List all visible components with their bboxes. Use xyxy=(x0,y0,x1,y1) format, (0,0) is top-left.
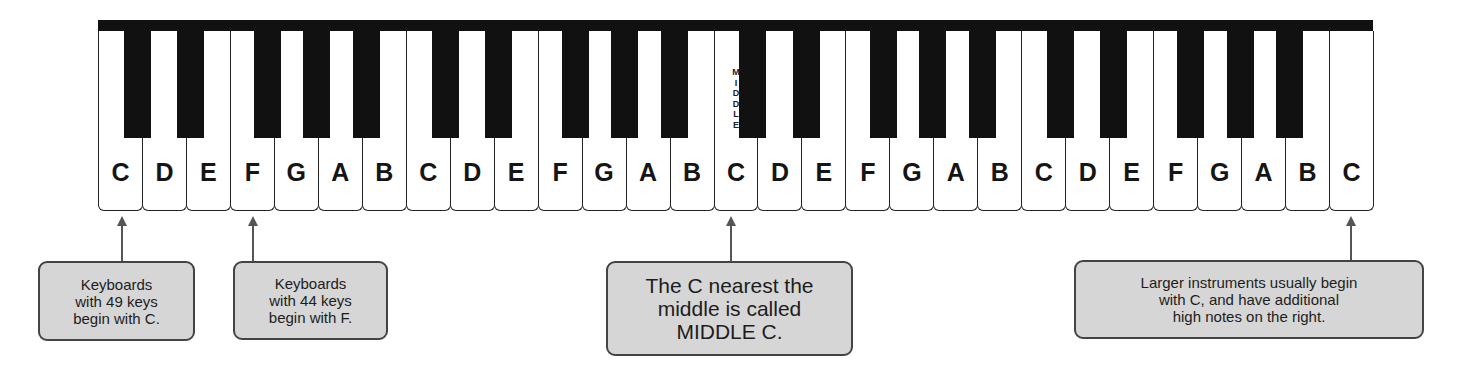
note-label: A xyxy=(627,160,670,185)
note-label: G xyxy=(890,160,933,185)
arrow-up-icon xyxy=(1350,225,1352,261)
note-label: E xyxy=(1110,160,1153,185)
callout-49-keys-text: Keyboards with 49 keys begin with C. xyxy=(73,276,160,327)
note-label: D xyxy=(758,160,801,185)
note-label: F xyxy=(846,160,889,185)
black-key-d-sharp xyxy=(177,31,204,138)
note-label: B xyxy=(1286,160,1329,185)
callout-49-keys: Keyboards with 49 keys begin with C. xyxy=(38,261,195,341)
callout-middle-c-text: The C nearest the middle is called MIDDL… xyxy=(645,274,813,343)
black-key-f-sharp xyxy=(870,31,897,138)
black-key-c-sharp xyxy=(124,31,151,138)
note-label: F xyxy=(1154,160,1197,185)
callout-larger-instruments: Larger instruments usually begin with C,… xyxy=(1074,260,1424,339)
black-key-g-sharp xyxy=(611,31,638,138)
black-key-f-sharp xyxy=(562,31,589,138)
note-label: D xyxy=(143,160,186,185)
note-label: G xyxy=(275,160,318,185)
note-label: C xyxy=(407,160,450,185)
piano-keyboard: CDEFGABCDEFGABCM I D D L EDEFGABCDEFGABC xyxy=(98,20,1373,213)
callout-larger-instruments-text: Larger instruments usually begin with C,… xyxy=(1141,274,1358,325)
note-label: F xyxy=(231,160,274,185)
white-key-c: C xyxy=(1329,31,1374,211)
note-label: E xyxy=(802,160,845,185)
callout-44-keys-text: Keyboards with 44 keys begin with F. xyxy=(269,275,352,326)
arrow-up-icon xyxy=(730,225,732,262)
note-label: C xyxy=(715,160,758,185)
black-key-d-sharp xyxy=(793,31,820,138)
callout-middle-c: The C nearest the middle is called MIDDL… xyxy=(606,261,853,356)
callout-44-keys: Keyboards with 44 keys begin with F. xyxy=(233,261,388,340)
note-label: A xyxy=(1242,160,1285,185)
black-key-c-sharp xyxy=(432,31,459,138)
black-key-g-sharp xyxy=(1227,31,1254,138)
note-label: C xyxy=(99,160,142,185)
note-label: D xyxy=(451,160,494,185)
note-label: B xyxy=(671,160,714,185)
black-key-f-sharp xyxy=(1177,31,1204,138)
black-key-a-sharp xyxy=(661,31,688,138)
black-key-c-sharp xyxy=(1047,31,1074,138)
arrow-up-icon xyxy=(252,225,254,262)
black-key-g-sharp xyxy=(919,31,946,138)
black-key-a-sharp xyxy=(353,31,380,138)
note-label: E xyxy=(495,160,538,185)
note-label: B xyxy=(363,160,406,185)
note-label: F xyxy=(539,160,582,185)
black-key-c-sharp xyxy=(739,31,766,138)
keyboard-top-bar xyxy=(98,20,1373,31)
black-key-g-sharp xyxy=(303,31,330,138)
note-label: A xyxy=(319,160,362,185)
note-label: G xyxy=(583,160,626,185)
note-label: C xyxy=(1330,160,1373,185)
black-key-d-sharp xyxy=(485,31,512,138)
arrow-up-icon xyxy=(121,225,123,262)
black-key-a-sharp xyxy=(1276,31,1303,138)
note-label: G xyxy=(1198,160,1241,185)
black-key-a-sharp xyxy=(969,31,996,138)
note-label: A xyxy=(934,160,977,185)
note-label: D xyxy=(1066,160,1109,185)
note-label: E xyxy=(187,160,230,185)
note-label: B xyxy=(978,160,1021,185)
black-key-d-sharp xyxy=(1100,31,1127,138)
note-label: C xyxy=(1022,160,1065,185)
black-key-f-sharp xyxy=(254,31,281,138)
